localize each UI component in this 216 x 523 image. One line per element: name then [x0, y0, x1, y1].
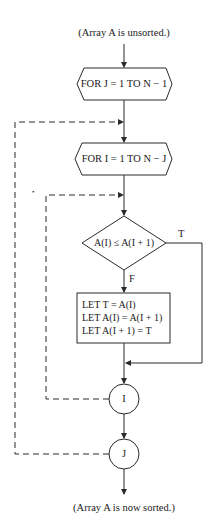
inner-loop-arrowhead	[118, 192, 124, 198]
end-label: (Array A is now sorted.)	[73, 502, 175, 514]
false-label: F	[129, 273, 135, 285]
true-label: T	[178, 228, 184, 240]
swap-line-1: LET T = A(I)	[82, 298, 136, 311]
outer-next-label: J	[122, 448, 126, 460]
inner-loop-label: FOR I = 1 TO N − J	[82, 153, 167, 165]
outer-loop-arrowhead	[118, 119, 124, 125]
outer-loop-label: FOR J = 1 TO N − 1	[81, 78, 167, 90]
decision-label: A(I) ≤ A(I + 1)	[94, 237, 154, 249]
swap-line-2: LET A(I) = A(I + 1)	[82, 311, 162, 324]
inner-next-label: I	[122, 393, 126, 405]
start-label: (Array A is unsorted.)	[78, 27, 170, 39]
stray-mark: •	[32, 186, 34, 198]
swap-line-3: LET A(I + 1) = T	[82, 324, 152, 337]
